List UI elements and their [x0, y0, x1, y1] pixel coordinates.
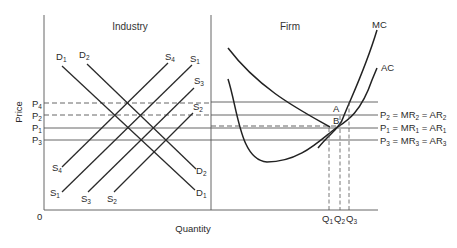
label-d2: D2: [79, 49, 90, 61]
point-a-label: A: [333, 103, 340, 114]
label-s2-bottom: S2: [107, 193, 117, 205]
label-p2-mr2-ar2: P2 = MR2 = AR2: [380, 109, 447, 121]
x-axis-label: Quantity: [175, 223, 211, 234]
label-s4-bottom: S4: [52, 162, 62, 174]
label-q1: Q1: [322, 213, 333, 225]
svg-text:P2: P2: [32, 110, 42, 122]
industry-title: Industry: [112, 21, 148, 32]
label-s3: S3: [194, 75, 204, 87]
label-p3-mr3-ar3: P3 = MR3 = AR3: [380, 135, 447, 147]
label-d1: D1: [56, 51, 67, 63]
label-ac: AC: [381, 62, 394, 73]
label-q2: Q2: [334, 213, 345, 225]
label-d1-bottom: D1: [196, 187, 207, 199]
y-axis-label: Price: [13, 101, 24, 123]
perfect-competition-diagram: Price Quantity 0 Industry Firm P4 P2 P1 …: [0, 0, 457, 248]
label-d2-bottom: D2: [196, 165, 207, 177]
price-label-p3: P3: [32, 134, 42, 146]
svg-text:P1: P1: [32, 122, 42, 134]
price-label-p1: P1: [32, 122, 42, 134]
label-s2: S2: [193, 101, 203, 113]
price-label-p4: P4: [32, 98, 42, 110]
label-s1: S1: [190, 53, 200, 65]
label-s3-bottom: S3: [81, 193, 91, 205]
point-b-label: B: [333, 115, 339, 126]
svg-text:P3: P3: [32, 134, 42, 146]
price-label-p2: P2: [32, 110, 42, 122]
label-q3: Q3: [346, 213, 357, 225]
demand-curve-d2: [87, 64, 196, 169]
label-s4: S4: [165, 51, 175, 63]
label-mc: MC: [372, 19, 387, 30]
label-p1-mr1-ar1: P1 = MR1 = AR1: [380, 122, 447, 134]
svg-text:P4: P4: [32, 98, 42, 110]
label-s1-bottom: S1: [50, 187, 60, 199]
origin-label: 0: [37, 211, 42, 222]
firm-title: Firm: [280, 21, 300, 32]
